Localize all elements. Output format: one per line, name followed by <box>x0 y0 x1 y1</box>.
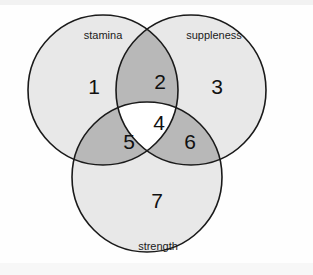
set-label-stamina: stamina <box>84 29 123 41</box>
region-number-7: 7 <box>151 189 163 212</box>
venn-diagram-svg: stamina suppleness strength 1 2 3 4 5 6 … <box>0 0 313 275</box>
region-number-4: 4 <box>153 111 165 134</box>
set-label-suppleness: suppleness <box>186 29 242 41</box>
set-label-strength: strength <box>138 240 178 252</box>
region-number-5: 5 <box>123 130 135 153</box>
venn-diagram-canvas: stamina suppleness strength 1 2 3 4 5 6 … <box>0 0 313 275</box>
region-number-6: 6 <box>184 130 196 153</box>
region-number-2: 2 <box>154 70 166 93</box>
region-number-3: 3 <box>211 75 223 98</box>
region-number-1: 1 <box>88 75 100 98</box>
